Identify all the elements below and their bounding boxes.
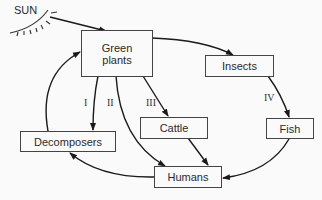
green-plants-line1: Green [102,42,133,54]
food-web-diagram: SUN Green plants Insects Cattle Fish Dec… [0,0,322,200]
node-green-plants: Green plants [81,30,153,77]
pathway-label-ii: II [107,97,114,108]
sun-label: SUN [14,4,37,16]
pathway-label-iii: III [146,97,156,108]
node-insects: Insects [205,55,274,77]
edge-plants-insects [152,38,233,55]
node-cattle: Cattle [140,117,208,139]
edge-decomposers-plants [46,52,80,131]
pathway-label-i: I [84,97,87,108]
edge-plants-decomposers [93,76,98,130]
edge-fish-humans [223,139,289,178]
edge-cattle-humans [188,138,208,165]
node-decomposers: Decomposers [20,131,116,152]
edge-sun-plants [50,17,106,31]
node-fish: Fish [266,118,314,139]
edge-plants-cattle [143,76,168,116]
edge-humans-decomposers [70,153,154,177]
pathway-label-iv: IV [264,92,275,103]
green-plants-line2: plants [102,54,131,66]
node-humans: Humans [154,166,222,188]
